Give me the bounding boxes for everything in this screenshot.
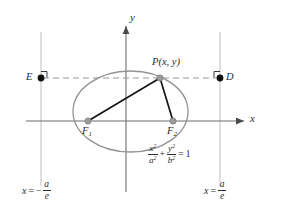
directrix-left-equation: x = − a e — [22, 180, 51, 201]
directrix-right-denominator: e — [219, 191, 225, 201]
ellipse-equation-term-x: x2 a2 — [148, 143, 158, 166]
eq-y-power: 2 — [172, 143, 175, 149]
eq-b-power: 2 — [172, 155, 175, 161]
point-p-marker — [157, 75, 163, 81]
focus-2-marker — [170, 118, 176, 124]
segment-f2-p — [160, 78, 173, 121]
directrix-right-equation: x = a e — [204, 180, 226, 201]
point-e-marker — [38, 75, 45, 82]
point-d-label: D — [226, 72, 234, 83]
x-axis-arrowhead — [236, 118, 244, 125]
directrix-right-fraction: a e — [218, 180, 226, 201]
directrix-right-equals: = — [210, 186, 216, 196]
directrix-left-denominator: e — [44, 191, 50, 201]
directrix-left-lhs: x — [22, 186, 26, 196]
ellipse-equation: x2 a2 + y2 b2 = 1 — [148, 143, 190, 166]
ellipse-figure: y x P(x, y) F1 F2 E D x2 a2 + y2 b2 = 1 … — [0, 0, 281, 217]
focus-1-label: F1 — [82, 126, 92, 138]
ellipse-equation-term-y: y2 b2 — [167, 143, 177, 166]
x-axis-label: x — [250, 113, 255, 124]
focus-1-label-sub: 1 — [88, 130, 92, 138]
focus-2-label: F2 — [167, 126, 177, 138]
eq-x-power: 2 — [153, 143, 156, 149]
focus-1-marker — [85, 118, 91, 124]
directrix-right-numerator: a — [219, 180, 226, 190]
directrix-right-lhs: x — [204, 186, 208, 196]
segment-f1-p — [88, 78, 160, 121]
ellipse-equation-operator: + — [160, 150, 165, 160]
focus-2-label-sub: 2 — [173, 130, 177, 138]
y-axis-arrowhead — [123, 26, 130, 34]
directrix-left-fraction: a e — [43, 180, 51, 201]
y-axis-label: y — [130, 12, 135, 23]
directrix-left-equals: = — [28, 186, 34, 196]
ellipse-equation-equals: = — [178, 150, 183, 160]
eq-a-power: 2 — [154, 155, 157, 161]
point-p-label: P(x, y) — [152, 57, 180, 68]
point-p-label-args: (x, y) — [158, 56, 180, 67]
directrix-left-numerator: a — [43, 180, 50, 190]
point-e-label: E — [26, 72, 32, 83]
point-d-marker — [217, 75, 224, 82]
ellipse-equation-rhs: 1 — [186, 150, 191, 160]
directrix-left-sign: − — [36, 186, 42, 196]
